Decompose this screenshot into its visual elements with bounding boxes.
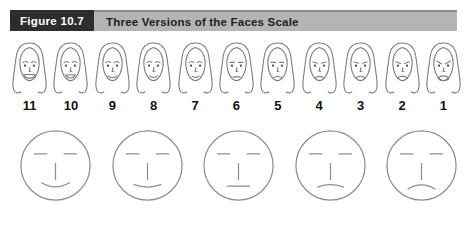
hair-part <box>103 48 122 61</box>
circle-face-3 <box>202 129 275 202</box>
left-eye <box>355 65 357 67</box>
hair-curl <box>97 92 127 93</box>
scale-number-9: 9 <box>92 98 133 113</box>
numbered-faces-row <box>9 40 464 96</box>
scale-number-7: 7 <box>175 98 216 113</box>
hair-curl <box>263 92 293 93</box>
face-drawing-2 <box>382 40 423 96</box>
right-eye <box>74 65 76 67</box>
figure-number-label: Figure 10.7 <box>10 10 94 31</box>
hair-curl <box>139 92 169 93</box>
eyebrows <box>64 62 77 63</box>
right-eye <box>405 65 407 67</box>
mouth <box>356 76 365 78</box>
left-eye <box>107 65 109 67</box>
face-drawing-11 <box>9 40 50 96</box>
circle-face-2 <box>111 129 184 202</box>
left-eye <box>65 65 67 67</box>
face-drawing-8 <box>133 40 174 96</box>
nose <box>71 68 73 72</box>
circle-faces-row <box>19 129 458 202</box>
right-eye <box>198 65 200 67</box>
hair-curl <box>221 92 251 93</box>
nose <box>278 68 280 72</box>
hair-part <box>20 48 39 61</box>
mouth <box>134 185 161 187</box>
circle-face-4 <box>294 129 367 202</box>
face-drawing-4 <box>299 40 340 96</box>
mouth <box>438 76 449 81</box>
mouth <box>274 76 281 77</box>
right-eye <box>364 65 366 67</box>
hair-part <box>268 48 287 61</box>
mouth <box>42 183 70 187</box>
right-eye <box>116 65 118 67</box>
scale-numbers-row: 1110987654321 <box>9 98 464 113</box>
hair-curl <box>428 92 458 93</box>
mouth <box>397 76 407 78</box>
scale-number-1: 1 <box>423 98 464 113</box>
right-eye <box>323 65 325 67</box>
mouth <box>192 76 199 77</box>
hair-part <box>434 48 453 61</box>
hair-curl <box>346 92 376 93</box>
hair-part <box>61 48 80 61</box>
hair-curl <box>15 92 45 93</box>
mouth <box>150 76 158 78</box>
left-eye <box>438 65 440 67</box>
figure-title: Three Versions of the Faces Scale <box>94 10 457 31</box>
scale-number-4: 4 <box>299 98 340 113</box>
right-eye <box>281 65 283 67</box>
scale-number-11: 11 <box>9 98 50 113</box>
scale-number-3: 3 <box>340 98 381 113</box>
nose <box>153 68 155 72</box>
face-drawing-5 <box>257 40 298 96</box>
face-drawing-6 <box>216 40 257 96</box>
face-drawing-3 <box>340 40 381 96</box>
right-eye <box>33 65 35 67</box>
mouth <box>317 185 343 187</box>
nose <box>29 68 31 72</box>
eyebrows <box>354 62 367 63</box>
left-eye <box>24 65 26 67</box>
hair-part <box>186 48 205 61</box>
face-drawing-1 <box>423 40 464 96</box>
hair-curl <box>180 92 210 93</box>
left-eye <box>396 65 398 67</box>
hair-part <box>144 48 163 61</box>
hair-part <box>351 48 370 61</box>
nose <box>319 68 321 72</box>
eyebrows <box>147 62 160 63</box>
hair-curl <box>387 92 417 93</box>
nose <box>236 68 238 72</box>
scale-number-8: 8 <box>133 98 174 113</box>
left-eye <box>189 65 191 67</box>
mouth <box>66 75 75 78</box>
face-drawing-7 <box>175 40 216 96</box>
eyebrows <box>189 62 202 63</box>
face-drawing-9 <box>92 40 133 96</box>
right-eye <box>447 65 449 67</box>
figure-header: Figure 10.7 Three Versions of the Faces … <box>10 10 457 31</box>
eyebrows <box>23 62 36 63</box>
hair-part <box>310 48 329 61</box>
circle-face-5 <box>385 129 458 202</box>
scale-number-5: 5 <box>257 98 298 113</box>
scale-number-2: 2 <box>382 98 423 113</box>
hair-curl <box>56 92 86 93</box>
scale-number-6: 6 <box>216 98 257 113</box>
hair-curl <box>304 92 334 93</box>
scale-number-10: 10 <box>50 98 91 113</box>
nose <box>402 68 404 72</box>
left-eye <box>231 65 233 67</box>
mouth <box>408 185 435 189</box>
mouth <box>315 76 323 78</box>
hair-part <box>227 48 246 61</box>
right-eye <box>157 65 159 67</box>
mouth <box>108 76 117 78</box>
nose <box>443 68 445 72</box>
left-eye <box>148 65 150 67</box>
eyebrows <box>437 61 450 64</box>
eyebrows <box>106 62 119 63</box>
hair-part <box>393 48 412 61</box>
